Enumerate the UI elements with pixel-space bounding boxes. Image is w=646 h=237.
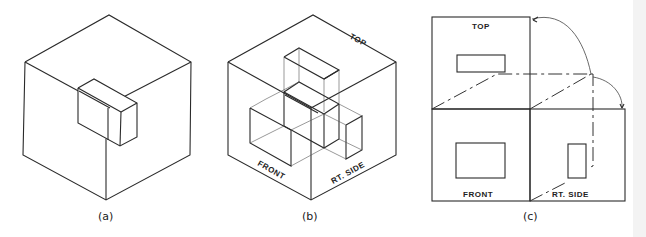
panel-c-right-side-label: RT. SIDE (552, 190, 589, 199)
panel-c-front-label: FRONT (463, 190, 493, 199)
panel-b-right-side-label: RT. SIDE (330, 160, 367, 186)
panel-b-caption: (b) (302, 210, 318, 223)
arrow-head-icon (533, 17, 538, 22)
panel-b-top-label: TOP (348, 32, 368, 49)
panel-b-side-projection (324, 104, 362, 159)
orthographic-projection-figure: (a) TOP FRONT RT. (0, 0, 646, 237)
panel-c-views (432, 17, 625, 201)
panel-a-caption: (a) (98, 210, 113, 223)
panel-c-top-label: TOP (472, 22, 490, 31)
panel-b-top-projection (284, 48, 339, 112)
panel-c-caption: (c) (523, 210, 538, 223)
fold-arc-side (593, 77, 622, 108)
panel-a-inner-block (78, 79, 137, 146)
fold-arc-top (532, 17, 591, 74)
